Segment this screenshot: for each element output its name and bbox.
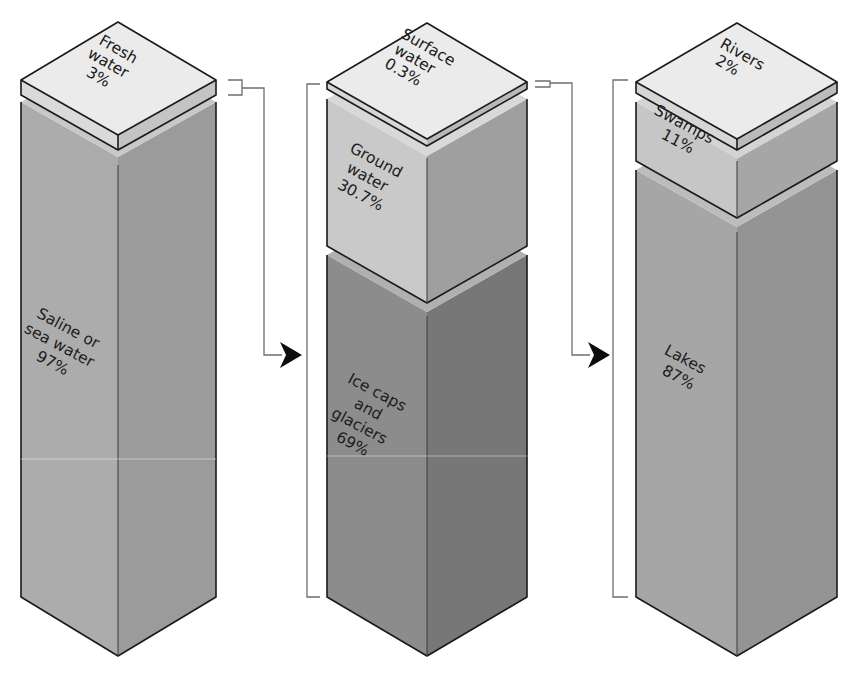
lakes-right-face bbox=[737, 170, 837, 656]
column-fresh-water: Surface water 0.3% Ground water 30.7% Ic… bbox=[318, 23, 527, 656]
saline-left-face bbox=[21, 102, 118, 656]
connector-fresh-to-column2 bbox=[228, 80, 320, 597]
arrow-right-icon bbox=[588, 342, 610, 368]
arrow-right-icon bbox=[280, 342, 302, 368]
water-distribution-diagram: Fresh water 3% Saline or sea water 97% bbox=[0, 0, 861, 676]
column-surface-water: Rivers 2% Swamps 11% Lakes 87% bbox=[636, 23, 837, 656]
column-earth-water: Fresh water 3% Saline or sea water 97% bbox=[12, 22, 216, 656]
lakes-left-face bbox=[636, 170, 737, 656]
saline-right-face bbox=[118, 102, 216, 656]
connector-surface-to-column3 bbox=[535, 80, 628, 597]
